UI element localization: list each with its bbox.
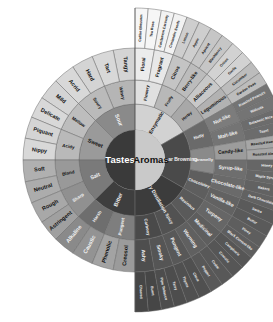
tastes-label: Tastes — [105, 154, 134, 165]
label-aroma-roasted-almond: Roasted Almond — [253, 152, 273, 157]
label-aroma-charred: Charred — [139, 285, 144, 299]
label-aroma-floral: Floral — [139, 57, 146, 72]
label-aroma-ashy: Ashy — [141, 249, 148, 262]
label-taste-soft: Soft — [34, 165, 45, 172]
aromas-label: Aromas — [133, 154, 168, 165]
label-aroma-caramelly: Caramelly — [193, 157, 214, 162]
label-aroma-honey: Honey — [261, 163, 272, 167]
flavor-wheel: SourWineyTangyTartSouryHardAcridSweetMel… — [0, 0, 273, 322]
